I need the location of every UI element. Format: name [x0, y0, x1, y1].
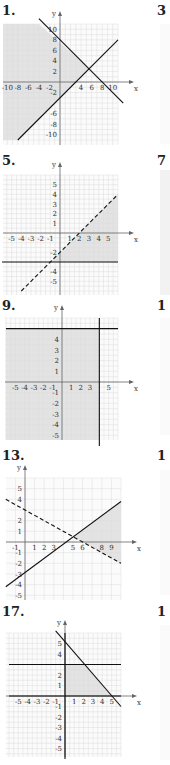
- svg-text:5: 5: [106, 235, 110, 243]
- svg-text:9: 9: [109, 544, 113, 552]
- svg-text:-3: -3: [34, 698, 41, 706]
- svg-text:2: 2: [58, 672, 62, 680]
- svg-text:2: 2: [18, 517, 22, 525]
- svg-text:6: 6: [80, 544, 85, 552]
- svg-text:5: 5: [109, 698, 113, 706]
- svg-text:3: 3: [55, 347, 59, 355]
- svg-text:6: 6: [89, 84, 94, 92]
- svg-text:-4: -4: [50, 268, 57, 276]
- svg-text:2: 2: [78, 384, 82, 392]
- exercise-label-3: 3: [157, 3, 166, 18]
- svg-text:-10: -10: [2, 84, 13, 92]
- svg-text:-4: -4: [55, 735, 62, 743]
- svg-text:x: x: [137, 545, 141, 553]
- arrow-icon: [58, 162, 62, 167]
- graph-exercise-13: xy-112356895421-1-2-3-4-5: [0, 445, 150, 600]
- svg-text:8: 8: [53, 36, 57, 44]
- svg-text:2: 2: [81, 698, 85, 706]
- graph-exercise-5: xy-5-4-3-2-11234554321-2-4-5: [0, 150, 150, 295]
- arrow-icon: [60, 305, 64, 310]
- arrow-icon: [129, 380, 134, 384]
- svg-text:8: 8: [100, 84, 104, 92]
- exercise-label-15: 1: [157, 448, 166, 463]
- svg-text:x: x: [134, 85, 138, 93]
- svg-text:-4: -4: [24, 698, 31, 706]
- svg-text:-5: -5: [52, 432, 59, 440]
- svg-text:1: 1: [18, 528, 22, 536]
- svg-text:-4: -4: [35, 84, 42, 92]
- svg-text:4: 4: [79, 84, 84, 92]
- svg-text:-6: -6: [25, 84, 32, 92]
- svg-text:5: 5: [53, 181, 57, 189]
- svg-text:6: 6: [53, 47, 58, 55]
- svg-text:x: x: [134, 236, 138, 244]
- svg-text:4: 4: [55, 336, 60, 344]
- svg-text:-1: -1: [52, 389, 59, 397]
- svg-text:-2: -2: [55, 714, 62, 722]
- clipped-graph-11: [160, 318, 170, 435]
- svg-text:-2: -2: [52, 400, 59, 408]
- svg-text:5: 5: [71, 544, 75, 552]
- svg-text:x: x: [137, 699, 141, 707]
- arrow-icon: [132, 540, 137, 544]
- svg-text:y: y: [51, 10, 56, 18]
- arrow-icon: [129, 231, 134, 235]
- svg-text:4: 4: [53, 191, 58, 199]
- svg-text:4: 4: [18, 496, 23, 504]
- svg-text:-5: -5: [12, 384, 19, 392]
- svg-text:-6: -6: [50, 110, 57, 118]
- svg-text:3: 3: [53, 201, 57, 209]
- svg-text:-2: -2: [15, 560, 22, 568]
- svg-text:4: 4: [96, 235, 101, 243]
- svg-text:-3: -3: [52, 411, 59, 419]
- svg-text:1: 1: [32, 544, 36, 552]
- svg-text:-8: -8: [50, 121, 57, 129]
- svg-text:y: y: [16, 464, 21, 472]
- svg-text:1: 1: [55, 368, 59, 376]
- svg-text:4: 4: [100, 698, 105, 706]
- graph-exercise-9: xy-5-4-3-2-112354321-1-2-3-4-5: [0, 295, 150, 445]
- svg-text:3: 3: [91, 698, 95, 706]
- graph-exercise-1: xy-10-8-6-4-246810108642-2-6-8-10: [0, 0, 150, 150]
- svg-text:-4: -4: [15, 581, 22, 589]
- clipped-graph-3: [160, 24, 170, 144]
- svg-text:4: 4: [53, 57, 58, 65]
- clipped-graph-19: [160, 625, 170, 760]
- svg-text:-2: -2: [50, 89, 57, 97]
- svg-text:y: y: [51, 161, 56, 169]
- exercise-label-7: 7: [157, 153, 166, 168]
- svg-text:10: 10: [108, 84, 117, 92]
- svg-text:-4: -4: [18, 235, 25, 243]
- svg-text:-5: -5: [50, 278, 57, 286]
- svg-text:-2: -2: [37, 235, 44, 243]
- svg-text:1: 1: [58, 682, 62, 690]
- svg-text:-2: -2: [43, 698, 50, 706]
- svg-text:-2: -2: [40, 384, 47, 392]
- svg-text:2: 2: [53, 68, 57, 76]
- clipped-graph-7: [160, 170, 170, 295]
- svg-text:y: y: [53, 304, 58, 312]
- svg-text:-4: -4: [21, 384, 28, 392]
- svg-text:1: 1: [72, 698, 76, 706]
- svg-text:-1: -1: [47, 235, 54, 243]
- svg-text:8: 8: [100, 544, 104, 552]
- svg-text:-3: -3: [31, 384, 38, 392]
- svg-text:-1: -1: [15, 549, 22, 557]
- svg-text:-3: -3: [28, 235, 35, 243]
- svg-text:y: y: [56, 619, 61, 627]
- exercise-label-19: 1: [157, 604, 166, 619]
- svg-text:x: x: [134, 385, 138, 393]
- arrow-icon: [58, 11, 62, 16]
- arrow-icon: [63, 620, 67, 625]
- arrow-icon: [129, 80, 134, 84]
- svg-text:5: 5: [18, 485, 22, 493]
- svg-text:3: 3: [88, 384, 92, 392]
- svg-text:-10: -10: [46, 131, 57, 139]
- svg-text:1: 1: [53, 220, 57, 228]
- svg-text:5: 5: [58, 640, 62, 648]
- svg-text:1: 1: [67, 235, 71, 243]
- svg-text:-3: -3: [55, 724, 62, 732]
- svg-text:-5: -5: [8, 235, 15, 243]
- svg-text:2: 2: [55, 357, 59, 365]
- svg-text:2: 2: [77, 235, 81, 243]
